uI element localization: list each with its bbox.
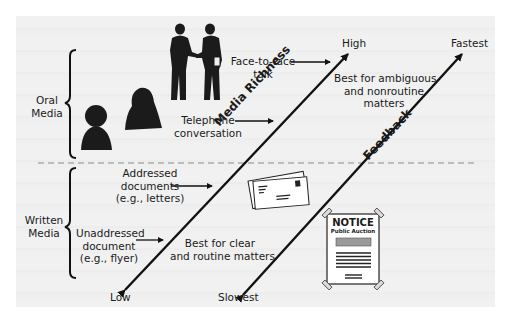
ambiguous-note-line3: matters [334, 97, 434, 110]
telephone-label: Telephone conversation [170, 114, 246, 139]
routine-note-line2: and routine matters [170, 250, 270, 263]
oral-media-label: Oral Media [30, 94, 64, 119]
oral-media-label-line1: Oral [30, 94, 64, 107]
routine-note: Best for clear and routine matters [170, 237, 270, 262]
media-richness-high-label: High [342, 37, 366, 50]
ambiguous-note-line1: Best for ambiguous [334, 72, 434, 85]
diagram-graphics [0, 0, 509, 324]
feedback-low-label: Slowest [218, 291, 259, 304]
unaddressed-line1: Unaddressed [76, 227, 142, 240]
routine-note-line1: Best for clear [170, 237, 270, 250]
media-richness-low-label: Low [110, 291, 131, 304]
telephone-line1: Telephone [170, 114, 246, 127]
written-brace [65, 168, 76, 278]
written-media-label-line1: Written [24, 214, 64, 227]
notice-title: NOTICE [327, 217, 379, 228]
unaddressed-line3: (e.g., flyer) [76, 252, 142, 265]
oral-media-label-line2: Media [30, 107, 64, 120]
telephone-line2: conversation [170, 127, 246, 140]
addressed-line1: Addressed [114, 167, 186, 180]
feedback-high-label: Fastest [451, 37, 488, 50]
written-media-label: Written Media [24, 214, 64, 239]
oral-brace [65, 50, 76, 158]
unaddressed-line2: document [76, 240, 142, 253]
telephone-callers-icon [81, 88, 162, 150]
addressed-line2: documents [114, 180, 186, 193]
unaddressed-document-label: Unaddressed document (e.g., flyer) [76, 227, 142, 265]
ambiguous-note-line2: and nonroutine [334, 85, 434, 98]
addressed-documents-label: Addressed documents (e.g., letters) [114, 167, 186, 205]
addressed-line3: (e.g., letters) [114, 192, 186, 205]
notice-subtitle: Public Auction [327, 228, 379, 235]
written-media-label-line2: Media [24, 227, 64, 240]
envelope-icon [248, 171, 309, 209]
handshake-icon [170, 24, 222, 101]
ambiguous-note: Best for ambiguous and nonroutine matter… [334, 72, 434, 110]
